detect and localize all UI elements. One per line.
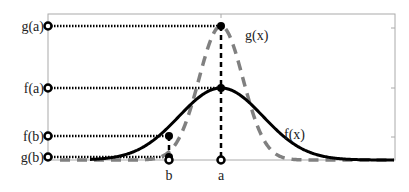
marker-b-axis [166,157,173,164]
marker-g-b-axis [45,154,52,161]
marker-f-a-axis [45,85,52,92]
label-b: b [166,168,173,183]
marker-f-b-point [165,132,173,140]
label-f-a: f(a) [24,81,45,97]
marker-f-b-axis [45,133,52,140]
diagram-canvas: g(a) f(a) f(b) g(b) a b g(x) f(x) [0,0,409,192]
label-g-a: g(a) [21,19,44,35]
marker-g-a-axis [45,23,52,30]
label-g-b: g(b) [21,150,45,166]
label-f-x: f(x) [284,127,305,143]
label-g-x: g(x) [245,28,269,44]
label-a: a [218,168,225,183]
label-f-b: f(b) [23,129,44,145]
marker-g-a-point [217,22,225,30]
f-curve [90,88,394,160]
g-curve [60,26,394,160]
marker-a-axis [218,157,225,164]
marker-f-a-point [217,84,225,92]
